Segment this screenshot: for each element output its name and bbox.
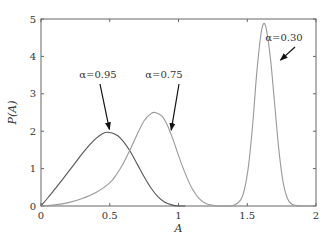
plot-border (41, 19, 316, 206)
x-tick-label: 1.5 (239, 210, 255, 221)
y-tick-label: 1 (30, 163, 36, 174)
series-line-0 (41, 132, 185, 206)
annotation-arrow (171, 84, 179, 130)
annotation-arrow (281, 47, 296, 60)
y-tick-label: 0 (30, 201, 36, 212)
curves (41, 23, 316, 206)
x-axis-label: A (174, 222, 183, 235)
x-tick-label: 0 (38, 210, 44, 221)
annotation-label: α=0.95 (79, 69, 116, 80)
annotation-label: α=0.30 (265, 32, 302, 43)
annotation-label: α=0.75 (145, 69, 182, 80)
x-tick-label: 2 (313, 210, 319, 221)
series-line-2 (227, 23, 316, 206)
y-tick-label: 4 (30, 51, 36, 62)
chart: 00.511.52012345 α=0.95α=0.75α=0.30 A P(A… (0, 0, 333, 243)
annotation-arrow (100, 84, 109, 129)
y-tick-label: 3 (30, 88, 36, 99)
x-tick-label: 0.5 (102, 210, 118, 221)
y-tick-label: 2 (30, 126, 36, 137)
y-axis-label: P(A) (6, 101, 19, 126)
x-tick-label: 1 (175, 210, 181, 221)
plot-frame (41, 19, 316, 206)
y-tick-label: 5 (30, 14, 36, 25)
series-line-1 (41, 112, 227, 206)
